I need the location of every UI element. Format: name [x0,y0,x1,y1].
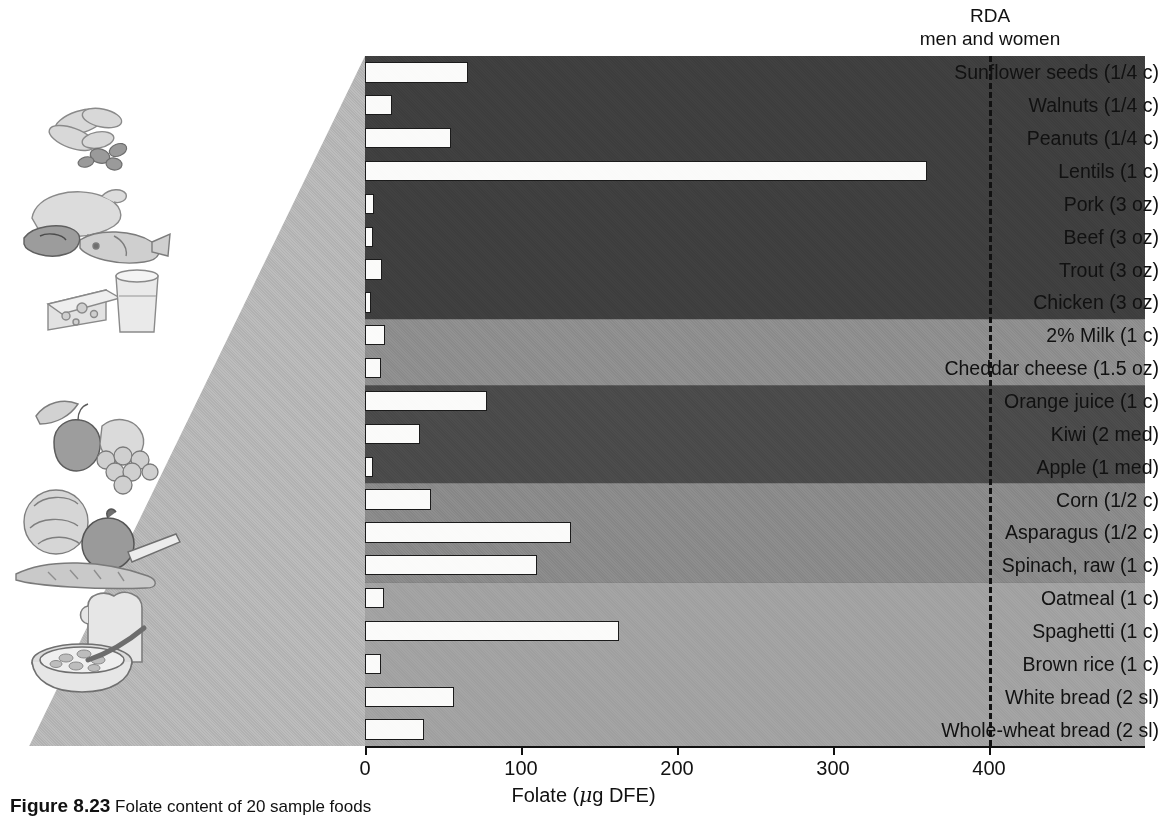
bar [365,227,373,247]
category-label: Walnuts (1/4 c) [807,94,1167,117]
bar [365,588,384,608]
bar [365,457,373,477]
bar [365,391,487,411]
bar [365,292,371,312]
category-label: White bread (2 sl) [807,685,1167,708]
category-label: 2% Milk (1 c) [807,324,1167,347]
figure-caption-label: Figure 8.23 [10,795,110,816]
bar [365,424,420,444]
bar [365,95,392,115]
group-band-separator [365,483,1145,484]
x-axis-tick-label: 200 [660,757,693,780]
meat-fish-illustration [18,178,178,268]
category-label: Spaghetti (1 c) [807,620,1167,643]
bar [365,522,571,542]
x-axis-tick [365,746,367,755]
category-label: Trout (3 oz) [807,258,1167,281]
x-axis-tick-label: 0 [359,757,370,780]
bar [365,325,385,345]
category-label: Peanuts (1/4 c) [807,127,1167,150]
x-axis-line [365,746,1145,748]
bar [365,654,381,674]
category-label: Apple (1 med) [807,455,1167,478]
bar [365,489,431,509]
group-band-separator [365,582,1145,583]
category-label: Spinach, raw (1 c) [807,554,1167,577]
bar [365,194,374,214]
bar [365,621,619,641]
group-band-separator [365,319,1145,320]
category-label: Beef (3 oz) [807,225,1167,248]
x-axis-tick-label: 300 [816,757,849,780]
category-label: Chicken (3 oz) [807,291,1167,314]
rda-subtitle: men and women [870,27,1110,50]
x-axis-tick [989,746,991,755]
category-label: Pork (3 oz) [807,192,1167,215]
bar [365,687,454,707]
category-label: Asparagus (1/2 c) [807,521,1167,544]
nuts-illustration [38,100,168,180]
category-wedge-panel [0,56,365,746]
x-axis-tick [833,746,835,755]
category-label: Orange juice (1 c) [807,390,1167,413]
bar [365,128,451,148]
category-label: Kiwi (2 med) [807,422,1167,445]
figure-caption-text: Folate content of 20 sample foods [115,797,371,816]
figure-caption: Figure 8.23 Folate content of 20 sample … [10,795,910,817]
rda-title: RDA [870,4,1110,27]
bar [365,358,381,378]
category-label: Cheddar cheese (1.5 oz) [807,357,1167,380]
bar [365,62,468,82]
category-label: Corn (1/2 c) [807,488,1167,511]
rda-header: RDA men and women [870,4,1110,50]
category-label: Oatmeal (1 c) [807,587,1167,610]
x-axis-tick [677,746,679,755]
bar [365,555,537,575]
category-label: Sunflower seeds (1/4 c) [807,61,1167,84]
category-label: Lentils (1 c) [807,160,1167,183]
category-label: Brown rice (1 c) [807,652,1167,675]
category-label: Whole-wheat bread (2 sl) [807,718,1167,741]
x-axis-tick-label: 400 [972,757,1005,780]
group-band-separator [365,385,1145,386]
x-axis-tick-label: 100 [504,757,537,780]
cheese-milk-illustration [40,268,170,348]
bar [365,259,382,279]
bar [365,719,424,739]
x-axis-tick [521,746,523,755]
